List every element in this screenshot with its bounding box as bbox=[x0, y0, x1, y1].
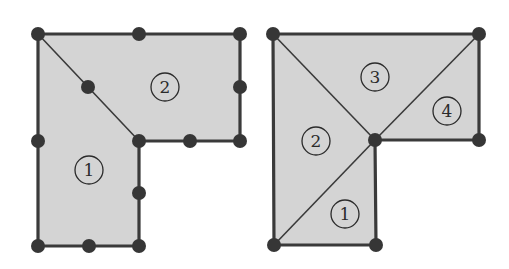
element-number: 2 bbox=[311, 131, 322, 151]
mesh-node bbox=[472, 27, 486, 41]
mesh-node bbox=[132, 239, 146, 253]
mesh-node bbox=[132, 186, 146, 200]
element-number: 3 bbox=[370, 67, 381, 87]
mesh-node bbox=[31, 134, 45, 148]
mesh-node bbox=[81, 80, 95, 94]
left-figure-quadratic-mesh: 12 bbox=[31, 27, 247, 253]
mesh-node bbox=[369, 238, 383, 252]
mesh-node bbox=[472, 133, 486, 147]
mesh-node bbox=[233, 134, 247, 148]
element-number: 4 bbox=[442, 101, 453, 121]
mesh-node bbox=[132, 27, 146, 41]
mesh-node bbox=[31, 27, 45, 41]
mesh-node bbox=[82, 239, 96, 253]
mesh-node bbox=[31, 239, 45, 253]
mesh-diagram: 12 1234 bbox=[0, 0, 509, 269]
element-number: 2 bbox=[160, 77, 171, 97]
mesh-node bbox=[132, 134, 146, 148]
mesh-node bbox=[233, 80, 247, 94]
mesh-node bbox=[183, 134, 197, 148]
right-figure-triangular-mesh: 1234 bbox=[266, 27, 486, 252]
element-number: 1 bbox=[340, 204, 351, 224]
mesh-node bbox=[233, 27, 247, 41]
mesh-node bbox=[266, 27, 280, 41]
element-number: 1 bbox=[84, 160, 95, 180]
mesh-node bbox=[267, 238, 281, 252]
mesh-node bbox=[368, 133, 382, 147]
